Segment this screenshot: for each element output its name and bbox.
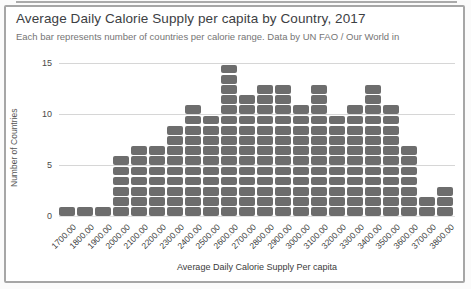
bar-unit-cell — [275, 95, 291, 104]
bar-unit-cell — [293, 136, 309, 145]
bar-unit-cell — [221, 65, 237, 74]
bar-unit-cell — [185, 126, 201, 135]
bar-unit-cell — [257, 167, 273, 176]
bar-unit-cell — [185, 197, 201, 206]
bar-unit-cell — [437, 187, 453, 196]
bar-unit-cell — [293, 177, 309, 186]
bar-unit-cell — [113, 167, 129, 176]
bar-1900.00 — [95, 207, 111, 216]
bar-unit-cell — [365, 126, 381, 135]
bar-unit-cell — [185, 146, 201, 155]
bar-unit-cell — [131, 187, 147, 196]
bar-2900.00 — [275, 85, 291, 216]
bar-unit-cell — [383, 177, 399, 186]
bar-unit-cell — [275, 116, 291, 125]
bar-unit-cell — [131, 207, 147, 216]
bar-unit-cell — [221, 177, 237, 186]
bar-2400.00 — [185, 105, 201, 216]
bar-unit-cell — [275, 167, 291, 176]
bar-3000.00 — [293, 105, 309, 216]
bar-unit-cell — [347, 207, 363, 216]
bar-unit-cell — [257, 136, 273, 145]
bar-unit-cell — [95, 207, 111, 216]
bar-unit-cell — [203, 136, 219, 145]
bar-unit-cell — [167, 167, 183, 176]
bar-unit-cell — [239, 156, 255, 165]
bar-unit-cell — [365, 177, 381, 186]
bar-unit-cell — [203, 187, 219, 196]
bar-unit-cell — [167, 126, 183, 135]
bar-unit-cell — [149, 187, 165, 196]
bar-unit-cell — [131, 167, 147, 176]
bar-2700.00 — [239, 95, 255, 216]
bar-unit-cell — [131, 177, 147, 186]
bar-unit-cell — [221, 126, 237, 135]
bar-unit-cell — [419, 207, 435, 216]
bar-2000.00 — [113, 156, 129, 216]
bar-unit-cell — [311, 105, 327, 114]
bar-unit-cell — [401, 187, 417, 196]
bar-3400.00 — [365, 85, 381, 216]
bar-unit-cell — [167, 197, 183, 206]
bar-unit-cell — [185, 116, 201, 125]
bar-3200.00 — [329, 116, 345, 216]
bar-unit-cell — [257, 207, 273, 216]
bar-unit-cell — [131, 146, 147, 155]
bar-unit-cell — [257, 197, 273, 206]
bar-unit-cell — [167, 187, 183, 196]
bar-unit-cell — [293, 187, 309, 196]
bar-unit-cell — [401, 207, 417, 216]
bar-1800.00 — [77, 207, 93, 216]
bar-unit-cell — [221, 156, 237, 165]
bar-unit-cell — [311, 207, 327, 216]
bar-unit-cell — [257, 105, 273, 114]
bar-3700.00 — [419, 197, 435, 216]
plot-area: 051015Number of Countries1700.001800.001… — [6, 7, 463, 281]
bar-unit-cell — [293, 156, 309, 165]
bar-unit-cell — [347, 105, 363, 114]
bar-unit-cell — [329, 136, 345, 145]
bar-unit-cell — [149, 177, 165, 186]
bar-unit-cell — [149, 167, 165, 176]
bar-unit-cell — [347, 136, 363, 145]
bar-unit-cell — [113, 207, 129, 216]
bar-3800.00 — [437, 187, 453, 216]
bar-unit-cell — [293, 116, 309, 125]
bar-unit-cell — [275, 197, 291, 206]
bar-unit-cell — [185, 177, 201, 186]
bar-unit-cell — [311, 85, 327, 94]
bar-unit-cell — [239, 177, 255, 186]
bar-unit-cell — [185, 187, 201, 196]
bar-unit-cell — [365, 105, 381, 114]
bar-unit-cell — [365, 85, 381, 94]
bar-unit-cell — [167, 177, 183, 186]
bar-unit-cell — [329, 177, 345, 186]
bar-unit-cell — [203, 167, 219, 176]
bar-unit-cell — [149, 156, 165, 165]
bar-unit-cell — [365, 136, 381, 145]
bar-unit-cell — [365, 146, 381, 155]
bar-unit-cell — [329, 156, 345, 165]
bar-unit-cell — [383, 146, 399, 155]
bar-unit-cell — [383, 187, 399, 196]
bar-1700.00 — [59, 207, 75, 216]
bar-unit-cell — [293, 207, 309, 216]
bar-2300.00 — [167, 126, 183, 216]
bar-unit-cell — [275, 126, 291, 135]
bar-unit-cell — [239, 116, 255, 125]
bar-unit-cell — [77, 207, 93, 216]
bar-unit-cell — [257, 177, 273, 186]
bar-unit-cell — [167, 156, 183, 165]
bar-unit-cell — [239, 167, 255, 176]
bar-unit-cell — [149, 207, 165, 216]
bar-unit-cell — [221, 146, 237, 155]
bar-unit-cell — [221, 85, 237, 94]
bar-unit-cell — [221, 105, 237, 114]
bar-unit-cell — [293, 167, 309, 176]
bar-unit-cell — [113, 197, 129, 206]
bar-unit-cell — [347, 156, 363, 165]
bar-unit-cell — [257, 146, 273, 155]
bar-unit-cell — [347, 126, 363, 135]
bar-unit-cell — [275, 105, 291, 114]
bar-unit-cell — [239, 126, 255, 135]
